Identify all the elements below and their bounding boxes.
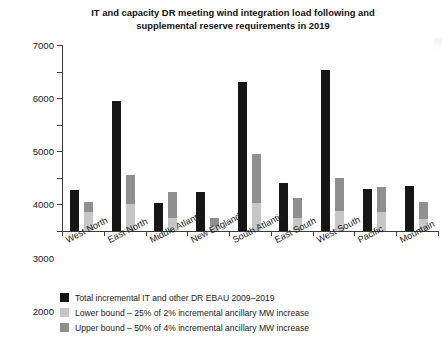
y-axis-tick: 4000 xyxy=(57,125,62,126)
legend-swatch xyxy=(60,323,69,332)
bar-total-incremental xyxy=(321,70,330,231)
y-axis-tick-label: 3000 xyxy=(33,252,54,263)
x-axis-tick xyxy=(313,231,314,236)
x-axis-tick xyxy=(438,231,439,236)
bar-total-incremental xyxy=(279,183,288,231)
plot-area: 01000200030004000500060007000 xyxy=(62,45,438,231)
legend-item: Upper bound – 50% of 4% incremental anci… xyxy=(60,320,420,335)
y-axis-tick-label: 7000 xyxy=(33,40,54,51)
legend-label: Total incremental IT and other DR EBAU 2… xyxy=(75,293,275,303)
bar-total-incremental xyxy=(112,101,121,231)
x-axis-tick xyxy=(146,231,147,236)
bar-total-incremental xyxy=(154,203,163,231)
chart-legend: Total incremental IT and other DR EBAU 2… xyxy=(60,290,420,335)
y-axis-tick-label: 6000 xyxy=(33,93,54,104)
y-axis-line xyxy=(62,45,63,232)
legend-label: Upper bound – 50% of 4% incremental anci… xyxy=(75,323,309,333)
y-axis-tick: 5000 xyxy=(57,98,62,99)
x-axis-tick xyxy=(104,231,105,236)
y-axis-tick-label: 2000 xyxy=(33,305,54,316)
legend-item: Total incremental IT and other DR EBAU 2… xyxy=(60,290,420,305)
chart-title: IT and capacity DR meeting wind integrat… xyxy=(48,6,418,32)
chart-container: IT and capacity DR meeting wind integrat… xyxy=(0,0,448,349)
legend-swatch xyxy=(60,308,69,317)
chart-title-line-2: supplemental reserve requirements in 201… xyxy=(136,20,330,31)
bar-total-incremental xyxy=(363,189,372,232)
y-axis-tick: 7000 xyxy=(57,45,62,46)
y-axis-tick-label: 5000 xyxy=(33,146,54,157)
legend-swatch xyxy=(60,293,69,302)
bar-total-incremental xyxy=(238,82,247,231)
legend-label: Lower bound – 25% of 2% incremental anci… xyxy=(75,308,309,318)
bar-bounds-stacked xyxy=(252,154,261,231)
bar-total-incremental xyxy=(70,190,79,231)
y-axis-tick: 6000 xyxy=(57,72,62,73)
y-axis-tick: 1000 xyxy=(57,204,62,205)
y-axis-tick: 2000 xyxy=(57,178,62,179)
legend-item: Lower bound – 25% of 2% incremental anci… xyxy=(60,305,420,320)
y-axis-tick-label: 4000 xyxy=(33,199,54,210)
y-axis-tick: 3000 xyxy=(57,151,62,152)
chart-title-line-1: IT and capacity DR meeting wind integrat… xyxy=(91,7,375,18)
bar-total-incremental xyxy=(405,186,414,231)
